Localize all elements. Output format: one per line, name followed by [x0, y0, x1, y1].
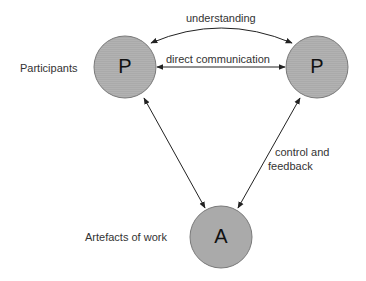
understanding-arrow	[151, 28, 292, 43]
direct-communication-label: direct communication	[166, 53, 270, 65]
participant-letter-right: P	[297, 55, 337, 78]
control-label-line2: feedback	[268, 160, 313, 172]
artefact-letter: A	[201, 225, 241, 248]
participant-letter-left: P	[105, 55, 145, 78]
control-label-line1: control and	[275, 146, 329, 158]
diagram-canvas	[0, 0, 366, 281]
participants-label: Participants	[20, 62, 77, 74]
participant-artefact-arrow	[144, 98, 205, 208]
understanding-label: understanding	[186, 12, 256, 24]
artefacts-label: Artefacts of work	[85, 231, 167, 243]
